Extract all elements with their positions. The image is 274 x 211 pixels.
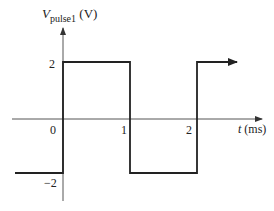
x-axis-label: t (ms) — [238, 122, 266, 136]
x-tick-1: 1 — [121, 123, 127, 137]
x-tick-2: 2 — [186, 123, 192, 137]
y-tick-neg2: −2 — [44, 176, 57, 190]
y-axis-label: Vpulse1 (V) — [42, 6, 97, 24]
y-tick-2: 2 — [49, 57, 55, 71]
pulse-waveform — [15, 62, 237, 173]
pulse-chart: Vpulse1 (V) t (ms) 0 1 2 2 −2 — [0, 0, 274, 211]
x-tick-0: 0 — [50, 123, 56, 137]
